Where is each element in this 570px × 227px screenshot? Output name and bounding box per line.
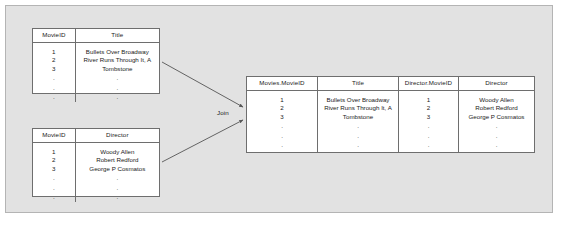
table-cell-ellipsis: . bbox=[281, 131, 283, 141]
table-cell: River Runs Through It, A bbox=[324, 104, 392, 112]
table-cell: Robert Redford bbox=[475, 104, 517, 112]
table-cell: Bullets Over Broadway bbox=[86, 48, 149, 56]
table-movies-body: 1 2 3 . . . Bullets Over Broadway River … bbox=[33, 43, 159, 102]
table-joined-header-director: Director bbox=[458, 77, 534, 90]
table-joined-header-row: Movies.MovieID Title Director.MovieID Di… bbox=[247, 77, 534, 91]
table-cell: Woody Allen bbox=[100, 148, 134, 156]
table-cell: 1 bbox=[280, 96, 283, 104]
table-cell: 3 bbox=[280, 113, 283, 121]
table-cell: 1 bbox=[52, 148, 55, 156]
table-movies-header-title: Title bbox=[75, 29, 159, 42]
table-cell-ellipsis: . bbox=[496, 140, 498, 150]
table-cell-ellipsis: . bbox=[357, 140, 359, 150]
table-joined-column-movies-movieid: 1 2 3 . . . bbox=[247, 91, 317, 152]
table-cell: River Runs Through It, A bbox=[84, 56, 152, 64]
column-header-label: MovieID bbox=[42, 131, 65, 139]
table-cell-ellipsis: . bbox=[53, 73, 55, 83]
table-cell: George P Cosmatos bbox=[89, 165, 145, 173]
table-cell-ellipsis: . bbox=[281, 121, 283, 131]
diagram-canvas: Join MovieID Title 1 2 3 . . . Bullets O… bbox=[0, 0, 570, 227]
table-movies-column-title: Bullets Over Broadway River Runs Through… bbox=[75, 43, 159, 102]
table-joined-header-movies-movieid: Movies.MovieID bbox=[247, 77, 317, 90]
table-cell: Tombstone bbox=[102, 65, 132, 73]
table-cell-ellipsis: . bbox=[116, 173, 118, 183]
table-directors-column-movieid: 1 2 3 . . . bbox=[33, 143, 75, 202]
table-joined-header-director-movieid: Director.MovieID bbox=[398, 77, 458, 90]
table-directors-header-movieid: MovieID bbox=[33, 129, 75, 142]
table-cell-ellipsis: . bbox=[53, 92, 55, 102]
table-cell-ellipsis: . bbox=[428, 121, 430, 131]
table-cell: Tombstone bbox=[343, 113, 373, 121]
table-cell: 1 bbox=[427, 96, 430, 104]
column-header-label: MovieID bbox=[42, 31, 65, 39]
table-directors-header-row: MovieID Director bbox=[33, 129, 159, 143]
table-joined-result: Movies.MovieID Title Director.MovieID Di… bbox=[246, 76, 535, 153]
table-cell-ellipsis: . bbox=[428, 140, 430, 150]
column-header-label: Director bbox=[485, 79, 507, 87]
table-cell: George P Cosmatos bbox=[469, 113, 525, 121]
table-directors-column-director: Woody Allen Robert Redford George P Cosm… bbox=[75, 143, 159, 202]
table-cell-ellipsis: . bbox=[116, 192, 118, 202]
table-cell: 3 bbox=[52, 165, 55, 173]
table-directors-body: 1 2 3 . . . Woody Allen Robert Redford G… bbox=[33, 143, 159, 202]
table-directors: MovieID Director 1 2 3 . . . Woody Allen… bbox=[32, 128, 160, 197]
table-joined-header-title: Title bbox=[317, 77, 398, 90]
table-cell: 2 bbox=[52, 156, 55, 164]
column-header-label: Title bbox=[352, 79, 364, 87]
table-joined-column-director: Woody Allen Robert Redford George P Cosm… bbox=[458, 91, 534, 152]
column-header-label: Director bbox=[106, 131, 128, 139]
table-cell-ellipsis: . bbox=[53, 183, 55, 193]
table-cell: Robert Redford bbox=[96, 156, 138, 164]
table-directors-header-director: Director bbox=[75, 129, 159, 142]
table-movies: MovieID Title 1 2 3 . . . Bullets Over B… bbox=[32, 28, 160, 94]
table-cell-ellipsis: . bbox=[116, 83, 118, 93]
table-cell: 1 bbox=[52, 48, 55, 56]
table-cell-ellipsis: . bbox=[357, 121, 359, 131]
table-cell: Woody Allen bbox=[479, 96, 513, 104]
table-cell: 2 bbox=[280, 104, 283, 112]
column-header-label: Title bbox=[111, 31, 123, 39]
table-joined-column-director-movieid: 1 2 3 . . . bbox=[398, 91, 458, 152]
table-cell: 3 bbox=[52, 65, 55, 73]
table-movies-header-movieid: MovieID bbox=[33, 29, 75, 42]
table-joined-body: 1 2 3 . . . Bullets Over Broadway River … bbox=[247, 91, 534, 152]
table-movies-column-movieid: 1 2 3 . . . bbox=[33, 43, 75, 102]
table-joined-column-title: Bullets Over Broadway River Runs Through… bbox=[317, 91, 398, 152]
column-header-label: Director.MovieID bbox=[405, 79, 452, 87]
table-cell: 2 bbox=[52, 56, 55, 64]
table-cell-ellipsis: . bbox=[116, 92, 118, 102]
table-cell-ellipsis: . bbox=[53, 83, 55, 93]
table-cell-ellipsis: . bbox=[116, 183, 118, 193]
column-header-label: Movies.MovieID bbox=[259, 79, 304, 87]
table-cell-ellipsis: . bbox=[496, 121, 498, 131]
table-cell-ellipsis: . bbox=[357, 131, 359, 141]
table-cell-ellipsis: . bbox=[496, 131, 498, 141]
table-cell-ellipsis: . bbox=[53, 192, 55, 202]
table-cell-ellipsis: . bbox=[428, 131, 430, 141]
join-label: Join bbox=[217, 109, 229, 116]
table-cell: 2 bbox=[427, 104, 430, 112]
table-cell-ellipsis: . bbox=[53, 173, 55, 183]
table-cell: 3 bbox=[427, 113, 430, 121]
table-cell-ellipsis: . bbox=[281, 140, 283, 150]
table-cell: Bullets Over Broadway bbox=[327, 96, 390, 104]
table-movies-header-row: MovieID Title bbox=[33, 29, 159, 43]
table-cell-ellipsis: . bbox=[116, 73, 118, 83]
